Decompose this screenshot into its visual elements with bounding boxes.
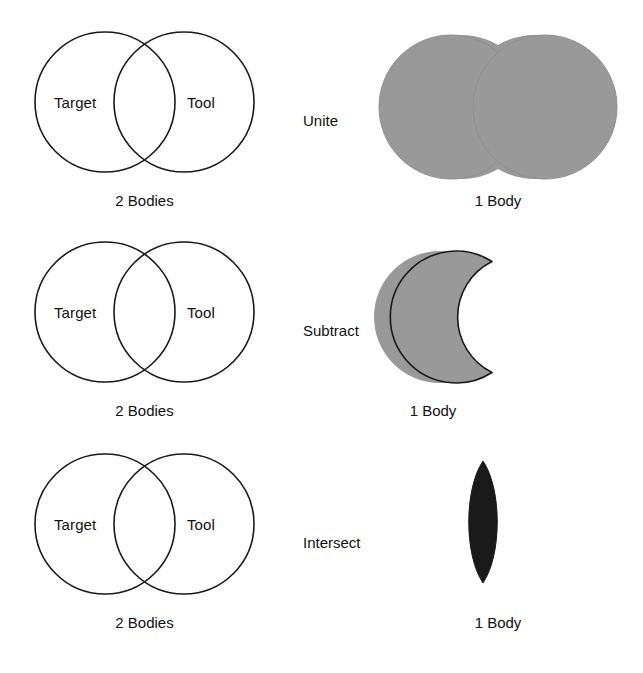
operation-row-intersect: Target Tool 2 Bodies Intersect 1 Body	[0, 437, 643, 652]
result-unite: 1 Body	[360, 15, 630, 215]
input-body-count-caption: 2 Bodies	[22, 403, 267, 418]
venn-target-label: Target	[54, 305, 96, 320]
venn-tool-label: Tool	[187, 517, 215, 532]
input-body-count-caption: 2 Bodies	[22, 615, 267, 630]
result-intersect: 1 Body	[360, 437, 630, 637]
operation-label-subtract: Subtract	[303, 323, 359, 338]
venn-diagram-subtract: Target Tool 2 Bodies	[22, 225, 267, 425]
output-body-count-caption: 1 Body	[378, 193, 618, 208]
intersect-result-shape-icon	[448, 457, 518, 587]
operation-row-unite: Target Tool 2 Bodies Unite 1 Body	[0, 15, 643, 230]
unite-result-shape-icon	[378, 31, 618, 183]
venn-tool-label: Tool	[187, 95, 215, 110]
operation-label-intersect: Intersect	[303, 535, 361, 550]
output-body-count-caption: 1 Body	[368, 403, 498, 418]
operation-row-subtract: Target Tool 2 Bodies Subtract 1 Body	[0, 225, 643, 440]
operation-label-unite: Unite	[303, 113, 338, 128]
output-body-count-caption: 1 Body	[378, 615, 618, 630]
venn-target-label: Target	[54, 95, 96, 110]
input-body-count-caption: 2 Bodies	[22, 193, 267, 208]
boolean-operations-diagram: Target Tool 2 Bodies Unite 1 Body Target…	[0, 0, 643, 673]
subtract-result-shape-icon	[368, 241, 508, 393]
venn-diagram-intersect: Target Tool 2 Bodies	[22, 437, 267, 637]
venn-tool-label: Tool	[187, 305, 215, 320]
venn-target-label: Target	[54, 517, 96, 532]
result-subtract: 1 Body	[360, 225, 630, 425]
venn-diagram-unite: Target Tool 2 Bodies	[22, 15, 267, 215]
